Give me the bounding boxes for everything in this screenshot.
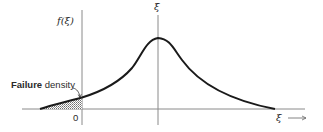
failure-density-diagram: f(ξ) ξ̄ 0 ξ Failure density bbox=[0, 0, 323, 132]
annotation-bold: Failure bbox=[11, 79, 42, 90]
x-axis-label: ξ bbox=[276, 113, 282, 123]
origin-label: 0 bbox=[73, 113, 78, 123]
y-axis-label: f(ξ) bbox=[57, 16, 74, 26]
mean-label: ξ̄ bbox=[154, 2, 160, 12]
failure-density-annotation: Failure density bbox=[11, 80, 75, 90]
annotation-rest: density bbox=[42, 79, 75, 90]
density-plot bbox=[0, 0, 323, 132]
